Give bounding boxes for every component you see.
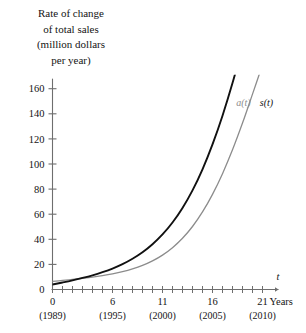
curve-label-st: s(t) (260, 97, 274, 109)
x-tick-label: 0 (50, 296, 55, 307)
x-tick-label: 11 (157, 296, 167, 307)
x-tick-label: 21 (257, 296, 268, 307)
x-tick-label: 6 (110, 296, 115, 307)
series-lines (53, 0, 263, 284)
series-curve-at (53, 65, 263, 281)
x-tick-label: 16 (207, 296, 218, 307)
x-axis: 00(1989)6(1995)11(2000)16(2005)21(2010) (39, 284, 278, 321)
rate-of-change-chart: Rate of change of total sales (million d… (0, 0, 306, 333)
axis-names: tYears (270, 271, 293, 307)
y-tick-label: 60 (34, 209, 45, 220)
plot-area: 20406080100120140160 00(1989)6(1995)11(2… (0, 0, 306, 333)
y-tick-label: 40 (34, 234, 45, 245)
y-tick-label: 80 (34, 184, 45, 195)
y-tick-label: 100 (29, 159, 45, 170)
y-tick-label: 120 (29, 134, 45, 145)
curve-label-at: a(t) (236, 97, 251, 109)
x-tick-year-label: (1995) (99, 310, 126, 322)
curve-labels: a(t)s(t) (236, 97, 274, 109)
x-axis-symbol-label: t (277, 271, 281, 282)
x-tick-year-label: (2010) (249, 310, 276, 322)
x-tick-year-label: (2005) (199, 310, 226, 322)
y-tick-label: 160 (29, 83, 45, 94)
x-tick-year-label: (2000) (149, 310, 176, 322)
x-tick-year-label: (1989) (39, 310, 66, 322)
y-tick-label: 140 (29, 108, 45, 119)
x-axis-unit-label: Years (270, 296, 293, 307)
y-tick-label-zero: 0 (39, 284, 44, 295)
y-axis: 20406080100120140160 (29, 79, 57, 290)
series-curve-st (53, 0, 263, 284)
y-tick-label: 20 (34, 259, 45, 270)
